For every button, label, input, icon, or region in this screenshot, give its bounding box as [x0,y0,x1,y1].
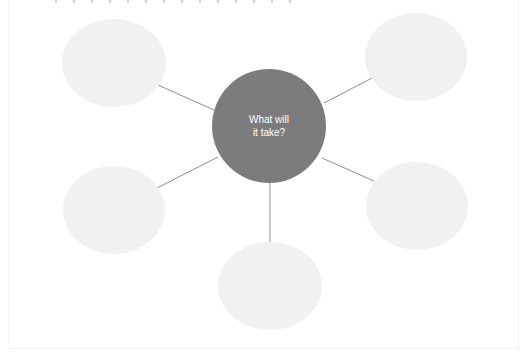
connector-top-left [158,85,214,110]
branch-node-right [366,162,468,250]
connector-top-right [324,78,372,103]
branch-node-top-left [62,19,166,107]
connector-bottom-left [157,157,218,188]
branch-node-bottom [218,242,322,330]
branch-node-bottom-left [63,166,165,254]
mind-map-diagram [0,0,528,362]
center-node [212,69,326,183]
connector-right [322,158,374,181]
branch-node-top-right [365,13,467,101]
